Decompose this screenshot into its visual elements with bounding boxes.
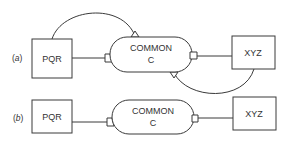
panel-b-label: (b)	[13, 113, 24, 123]
common-label-line1-a: COMMON	[130, 43, 172, 53]
common-label-line2-b: C	[150, 118, 157, 128]
common-label-line1-b: COMMON	[132, 106, 174, 116]
arc-common-to-xyz	[174, 69, 254, 94]
common-label-line2-a: C	[148, 55, 155, 65]
xyz-label-a: XYZ	[244, 48, 262, 58]
diagram-canvas: (a) PQR COMMON C XYZ (b) PQR	[0, 0, 292, 147]
pqr-label-b: PQR	[42, 112, 62, 122]
panel-a-label: (a)	[12, 53, 23, 63]
arc-attach-top	[131, 31, 139, 37]
panel-b: (b) PQR COMMON C XYZ	[13, 97, 276, 134]
port-right-a	[190, 52, 197, 59]
xyz-label-b: XYZ	[245, 109, 263, 119]
pqr-label-a: PQR	[42, 54, 62, 64]
panel-a: (a) PQR COMMON C XYZ	[12, 13, 275, 93]
port-right-b	[192, 115, 198, 122]
arc-pqr-to-common	[52, 13, 135, 39]
